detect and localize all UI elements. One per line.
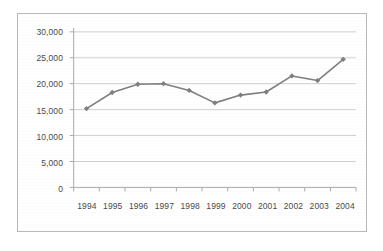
x-tick-marks-group	[74, 187, 356, 191]
gridlines-group	[74, 32, 356, 162]
y-tick-marks-group	[70, 32, 74, 188]
chart-figure: 05,00010,00015,00020,00025,00030,000 199…	[17, 13, 367, 232]
data-point-marker	[161, 81, 166, 86]
data-point-marker	[187, 88, 192, 93]
data-point-marker	[135, 82, 140, 87]
data-point-marker	[238, 92, 243, 97]
line-chart-plot	[18, 14, 366, 231]
data-point-marker	[212, 100, 217, 105]
